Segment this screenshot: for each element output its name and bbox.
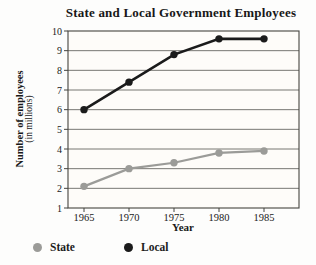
- data-point-state-1975: [170, 159, 177, 166]
- legend-item-state: State: [33, 239, 75, 255]
- legend-item-local: Local: [124, 239, 168, 255]
- y-tick-label: 2: [57, 183, 62, 194]
- legend-label-local: Local: [141, 241, 168, 253]
- plot-background: [68, 31, 299, 208]
- data-point-local-1970: [125, 78, 132, 85]
- x-axis-label: Year: [50, 221, 316, 233]
- y-axis-label-sub: (in millions): [25, 70, 35, 167]
- legend-label-state: State: [50, 241, 75, 253]
- y-tick-label: 1: [57, 203, 62, 214]
- data-point-state-1980: [215, 149, 222, 156]
- local-marker-icon: [124, 243, 133, 252]
- y-tick-label: 9: [57, 45, 62, 56]
- state-marker-icon: [33, 243, 42, 252]
- data-point-local-1985: [260, 35, 267, 42]
- data-point-state-1985: [260, 147, 267, 154]
- data-point-local-1965: [80, 106, 87, 113]
- y-tick-label: 3: [57, 163, 62, 174]
- y-tick-label: 7: [57, 85, 62, 96]
- y-tick-label: 10: [52, 26, 62, 37]
- data-point-state-1970: [125, 165, 132, 172]
- data-point-state-1965: [80, 183, 87, 190]
- y-tick-label: 4: [57, 144, 62, 155]
- y-tick-label: 8: [57, 65, 62, 76]
- chart: State and Local Government Employees 123…: [0, 0, 316, 265]
- y-tick-label: 6: [57, 104, 62, 115]
- legend: State Local: [0, 239, 316, 257]
- data-point-local-1980: [215, 35, 222, 42]
- data-point-local-1975: [170, 51, 177, 58]
- y-axis-label: Number of employees (in millions): [14, 70, 35, 167]
- y-tick-label: 5: [57, 124, 62, 135]
